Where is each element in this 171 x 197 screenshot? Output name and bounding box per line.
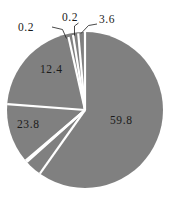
label-3-6: 3.6 — [99, 13, 115, 25]
label-23-8: 23.8 — [17, 118, 40, 130]
label-12-4: 12.4 — [40, 63, 63, 75]
pie-chart-figure: 0.2 0.2 3.6 12.4 23.8 59.8 — [0, 0, 171, 197]
label-59-8: 59.8 — [110, 114, 133, 126]
pie-chart-svg: 0.2 0.2 3.6 12.4 23.8 59.8 — [0, 0, 171, 197]
label-0-2-left: 0.2 — [18, 21, 34, 33]
label-0-2-center: 0.2 — [62, 11, 78, 23]
